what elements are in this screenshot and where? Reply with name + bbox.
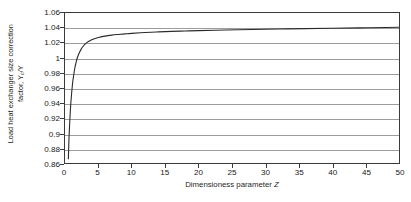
- y-axis-label-tail: /Y: [16, 66, 25, 73]
- x-tick-label: 15: [160, 168, 169, 177]
- x-tick-label: 45: [362, 168, 371, 177]
- y-tick-mark: [60, 27, 64, 28]
- x-tick-label: 40: [328, 168, 337, 177]
- y-axis-label-subscript: c: [19, 73, 25, 76]
- series-curve-layer: [65, 13, 399, 163]
- plot-area: [64, 12, 400, 164]
- x-tick-label: 50: [395, 168, 404, 177]
- y-tick-label: 0.94: [44, 99, 60, 108]
- y-tick-label: 0.9: [49, 129, 60, 138]
- y-tick-mark: [60, 88, 64, 89]
- y-axis-label: Load heat exchanger size correction fact…: [0, 0, 34, 168]
- y-tick-mark: [60, 118, 64, 119]
- x-tick-label: 35: [295, 168, 304, 177]
- series-curve-yc-over-y: [68, 27, 399, 159]
- y-tick-label: 0.88: [44, 144, 60, 153]
- y-tick-mark: [60, 12, 64, 13]
- y-tick-mark: [60, 73, 64, 74]
- y-tick-mark: [60, 149, 64, 150]
- x-tick-label: 20: [194, 168, 203, 177]
- chart-figure: Load heat exchanger size correction fact…: [0, 0, 411, 202]
- y-axis-tick-labels: 0.860.880.90.920.940.960.9811.021.041.06: [34, 12, 62, 164]
- x-tick-label: 10: [127, 168, 136, 177]
- x-tick-label: 30: [261, 168, 270, 177]
- x-axis-label-text: Dimensioness parameter Z: [185, 180, 279, 189]
- y-axis-label-line2: factor, Yc/Y: [16, 24, 28, 143]
- y-tick-mark: [60, 103, 64, 104]
- y-tick-label: 0.96: [44, 84, 60, 93]
- y-axis-label-line1: Load heat exchanger size correction: [6, 24, 15, 143]
- y-tick-label: 1.02: [44, 38, 60, 47]
- y-tick-label: 0.98: [44, 68, 60, 77]
- x-tick-label: 5: [95, 168, 100, 177]
- y-tick-label: 0.92: [44, 114, 60, 123]
- x-axis-label: Dimensioness parameter Z: [64, 180, 400, 189]
- x-tick-label: 25: [227, 168, 236, 177]
- x-tick-label: 0: [62, 168, 67, 177]
- y-tick-mark: [60, 58, 64, 59]
- y-tick-label: 1.04: [44, 23, 60, 32]
- x-axis-tick-labels: 05101520253035404550: [0, 168, 411, 180]
- y-tick-mark: [60, 134, 64, 135]
- y-tick-mark: [60, 42, 64, 43]
- y-tick-mark: [60, 164, 64, 165]
- y-tick-label: 1.06: [44, 8, 60, 17]
